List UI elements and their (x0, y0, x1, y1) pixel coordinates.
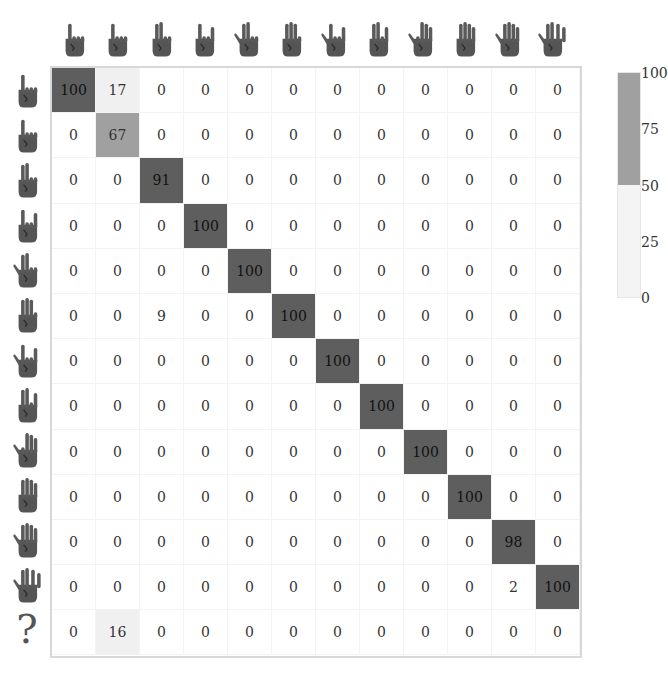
matrix-cell: 0 (184, 520, 228, 565)
hand-gesture-icon (531, 8, 575, 60)
matrix-cell: 17 (96, 68, 140, 113)
matrix-cell: 0 (316, 384, 360, 429)
matrix-cell: 0 (360, 339, 404, 384)
matrix-cell: 0 (184, 68, 228, 113)
matrix-cell: 0 (272, 384, 316, 429)
matrix-cell: 0 (360, 113, 404, 158)
hand-gesture-icon (6, 336, 48, 381)
matrix-cell: 0 (96, 204, 140, 249)
matrix-cell: 0 (404, 294, 448, 339)
hand-gesture-icon (444, 8, 488, 60)
matrix-cell: 0 (140, 610, 184, 655)
matrix-cell: 0 (228, 113, 272, 158)
hand-gesture-icon (6, 516, 48, 561)
matrix-cell: 0 (360, 158, 404, 203)
matrix-cell: 0 (536, 113, 580, 158)
matrix-cell: 0 (360, 475, 404, 520)
colorbar (617, 72, 641, 298)
matrix-cell: 0 (52, 610, 96, 655)
matrix-cell: 0 (96, 294, 140, 339)
matrix-cell: 0 (52, 384, 96, 429)
colorbar-tick-25: 25 (641, 235, 659, 249)
matrix-cell: 0 (360, 294, 404, 339)
colorbar-tick-0: 0 (641, 291, 650, 305)
matrix-cell: 0 (52, 294, 96, 339)
matrix-cell: 0 (448, 249, 492, 294)
matrix-cell: 0 (52, 520, 96, 565)
matrix-cell: 0 (360, 430, 404, 475)
matrix-cell: 0 (316, 249, 360, 294)
matrix-cell: 100 (360, 384, 404, 429)
hand-gesture-icon (183, 8, 227, 60)
matrix-cell: 0 (536, 520, 580, 565)
matrix-cell: 0 (448, 610, 492, 655)
colorbar-low-segment (618, 185, 640, 297)
hand-gesture-icon (6, 561, 48, 606)
matrix-cell: 0 (140, 68, 184, 113)
matrix-cell: 0 (272, 113, 316, 158)
matrix-cell: 0 (404, 158, 448, 203)
matrix-cell: 0 (448, 158, 492, 203)
matrix-cell: 0 (536, 294, 580, 339)
hand-gesture-icon (6, 111, 48, 156)
matrix-cell: 0 (140, 339, 184, 384)
matrix-cell: 0 (536, 68, 580, 113)
matrix-cell: 0 (52, 339, 96, 384)
matrix-cell: 0 (228, 430, 272, 475)
matrix-cell: 0 (492, 339, 536, 384)
matrix-cell: 0 (184, 475, 228, 520)
matrix-cell: 0 (404, 520, 448, 565)
matrix-cell: 0 (140, 249, 184, 294)
matrix-cell: 0 (272, 68, 316, 113)
hand-gesture-icon (226, 8, 270, 60)
matrix-cell: 0 (228, 158, 272, 203)
matrix-cell: 16 (96, 610, 140, 655)
matrix-cell: 0 (228, 384, 272, 429)
matrix-cell: 0 (272, 339, 316, 384)
matrix-cell: 0 (404, 339, 448, 384)
matrix-cell: 0 (448, 384, 492, 429)
matrix-cell: 100 (448, 475, 492, 520)
matrix-cell: 0 (96, 339, 140, 384)
matrix-cell: 0 (184, 113, 228, 158)
matrix-cell: 0 (492, 430, 536, 475)
matrix-cell: 0 (404, 68, 448, 113)
matrix-cell: 0 (272, 430, 316, 475)
matrix-cell: 0 (184, 294, 228, 339)
matrix-cell: 0 (492, 294, 536, 339)
matrix-cell: 0 (272, 249, 316, 294)
matrix-cell: 0 (492, 610, 536, 655)
matrix-cell: 0 (228, 294, 272, 339)
matrix-cell: 0 (52, 475, 96, 520)
row-gesture-icons: ? (6, 66, 48, 651)
matrix-cell: 0 (536, 339, 580, 384)
matrix-cell: 0 (448, 294, 492, 339)
matrix-cell: 0 (316, 475, 360, 520)
hand-gesture-icon (52, 8, 96, 60)
matrix-cell: 0 (316, 204, 360, 249)
matrix-cell: 0 (228, 520, 272, 565)
matrix-cell: 0 (272, 520, 316, 565)
matrix-cell: 0 (536, 430, 580, 475)
matrix-cell: 0 (228, 610, 272, 655)
hand-gesture-icon (487, 8, 531, 60)
matrix-cell: 100 (316, 339, 360, 384)
matrix-cell: 100 (228, 249, 272, 294)
matrix-cell: 0 (184, 384, 228, 429)
matrix-cell: 0 (140, 430, 184, 475)
matrix-cell: 0 (492, 68, 536, 113)
hand-gesture-icon (139, 8, 183, 60)
matrix-cell: 98 (492, 520, 536, 565)
matrix-cell: 2 (492, 565, 536, 610)
matrix-cell: 0 (140, 520, 184, 565)
matrix-cell: 0 (316, 610, 360, 655)
matrix-cell: 0 (316, 158, 360, 203)
matrix-cell: 0 (272, 565, 316, 610)
matrix-cell: 0 (140, 565, 184, 610)
matrix-cell: 0 (316, 68, 360, 113)
matrix-cell: 0 (140, 204, 184, 249)
matrix-cell: 100 (52, 68, 96, 113)
matrix-cell: 0 (184, 249, 228, 294)
matrix-cell: 0 (184, 339, 228, 384)
matrix-cell: 0 (492, 475, 536, 520)
